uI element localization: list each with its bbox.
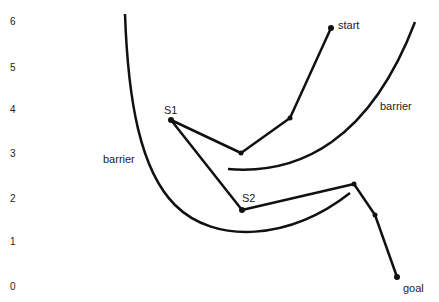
y-tick-6: 6 (10, 16, 16, 27)
waypoint (239, 151, 244, 156)
waypoint (352, 182, 357, 187)
y-tick-0: 0 (10, 281, 16, 292)
goal-point (394, 274, 400, 280)
barrier-outer-curve (125, 14, 350, 232)
s2-label: S2 (242, 192, 255, 204)
s1-point (168, 117, 174, 123)
start-label: start (338, 19, 359, 31)
goal-label: goal (403, 282, 424, 294)
waypoint (373, 213, 378, 218)
waypoint (288, 116, 293, 121)
s2-point (239, 207, 245, 213)
y-tick-4: 4 (10, 104, 16, 115)
y-tick-2: 2 (10, 193, 16, 204)
s1-label: S1 (164, 104, 177, 116)
y-tick-5: 5 (10, 62, 16, 73)
barrier-right-label: barrier (380, 100, 412, 112)
barrier-inner-curve (228, 22, 415, 170)
start-point (328, 25, 334, 31)
path-line (171, 28, 397, 277)
y-tick-1: 1 (10, 236, 16, 247)
barrier-left-label: barrier (103, 153, 135, 165)
path-diagram (0, 0, 439, 302)
y-tick-3: 3 (10, 148, 16, 159)
